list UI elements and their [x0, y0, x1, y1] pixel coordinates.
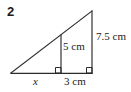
- label-base-left-segment: x: [33, 75, 38, 87]
- right-angle-mark-inner-icon: [56, 68, 62, 74]
- geometry-figure: 2 5 cm 7.5 cm 3 cm x: [0, 0, 131, 92]
- right-angle-mark-inner-fill-icon: [56, 68, 62, 74]
- label-inner-height: 5 cm: [63, 40, 85, 52]
- label-outer-height: 7.5 cm: [96, 30, 126, 42]
- right-angle-mark-outer-fill-icon: [87, 68, 93, 74]
- right-angle-mark-outer-icon: [87, 68, 93, 74]
- label-base-right-segment: 3 cm: [64, 75, 86, 87]
